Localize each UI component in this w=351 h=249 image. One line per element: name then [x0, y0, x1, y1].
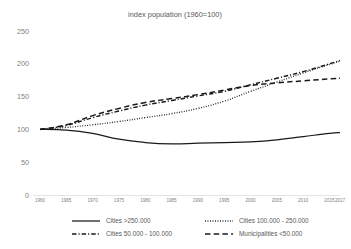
x-tick-label: 2000	[245, 198, 256, 203]
y-tick-label: 200	[17, 59, 29, 68]
population-index-line-chart: index population (1960=100) 050100150200…	[0, 0, 351, 249]
x-tick-label: 1975	[114, 198, 125, 203]
y-tick-label: 100	[17, 125, 29, 134]
x-tick-label: 1970	[88, 198, 99, 203]
x-tick-label: 1995	[219, 198, 230, 203]
y-tick-label: 0	[25, 191, 29, 200]
x-tick-label: 1960	[35, 198, 46, 203]
x-tick-label: 2005	[272, 198, 283, 203]
x-tick-label: 2017	[335, 198, 346, 203]
legend-label-4: Municipalities <50.000	[239, 230, 303, 238]
legend-label-1: Cities >250.000	[106, 217, 151, 224]
chart-title: index population (1960=100)	[128, 10, 222, 19]
x-tick-label: 2015	[324, 198, 335, 203]
x-tick-label: 1985	[166, 198, 177, 203]
legend-label-3: Cities 50.000 - 100.000	[106, 230, 173, 237]
y-tick-label: 250	[17, 27, 29, 36]
x-tick-label: 1980	[140, 198, 151, 203]
x-tick-label: 1965	[61, 198, 72, 203]
legend-label-2: Cities 100.000 - 250.000	[239, 217, 309, 224]
x-tick-label: 2010	[298, 198, 309, 203]
chart-background	[0, 0, 351, 249]
y-tick-label: 50	[21, 158, 29, 167]
chart-container: index population (1960=100) 050100150200…	[0, 0, 351, 249]
x-tick-label: 1990	[193, 198, 204, 203]
y-tick-label: 150	[17, 92, 29, 101]
